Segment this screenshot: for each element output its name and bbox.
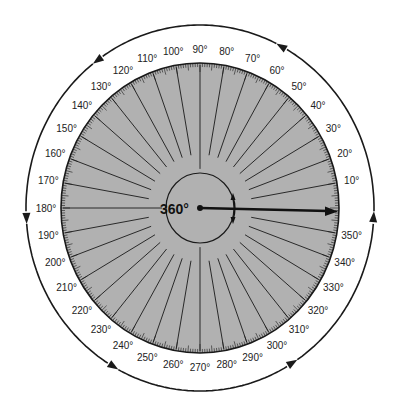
degree-label: 140° (72, 100, 93, 111)
degree-label: 160° (45, 148, 66, 159)
degree-label: 70° (245, 53, 260, 64)
degree-label: 50° (291, 81, 306, 92)
degree-label: 30° (326, 123, 341, 134)
degree-label: 240° (113, 340, 134, 351)
degree-label: 90° (192, 44, 207, 55)
degree-label: 40° (310, 100, 325, 111)
degree-label: 190° (38, 230, 59, 241)
protractor-diagram: 10°20°30°40°50°60°70°80°90°100°110°120°1… (0, 0, 394, 410)
degree-label: 60° (269, 65, 284, 76)
degree-label: 120° (113, 65, 134, 76)
degree-label: 150° (56, 123, 77, 134)
ccw-arrow-head-icon (369, 211, 377, 222)
ccw-arrow-head-icon (22, 213, 30, 224)
ccw-arrow-head-icon (107, 360, 118, 369)
degree-label: 230° (91, 324, 112, 335)
degree-label: 260° (163, 359, 184, 370)
degree-label: 340° (334, 257, 355, 268)
degree-label: 130° (91, 81, 112, 92)
degree-label: 10° (344, 175, 359, 186)
degree-label: 200° (45, 257, 66, 268)
degree-label: 250° (137, 352, 158, 363)
degree-label: 220° (72, 305, 93, 316)
center-dot (197, 205, 203, 211)
degree-label: 350° (341, 230, 362, 241)
degree-label: 170° (38, 175, 59, 186)
degree-label: 20° (337, 148, 352, 159)
degree-label: 180° (36, 203, 57, 214)
degree-label: 110° (137, 53, 157, 64)
degree-label: 320° (308, 305, 329, 316)
degree-label: 300° (267, 340, 288, 351)
outer-arc-segment (103, 25, 277, 56)
center-label: 360° (160, 201, 189, 217)
ccw-arrow-head-icon (276, 44, 287, 53)
degree-label: 210° (56, 282, 77, 293)
protractor-svg: 10°20°30°40°50°60°70°80°90°100°110°120°1… (0, 0, 394, 410)
ccw-arrow-head-icon (286, 360, 297, 369)
degree-label: 330° (323, 282, 344, 293)
degree-label: 280° (216, 359, 237, 370)
degree-label: 310° (289, 324, 310, 335)
degree-label: 290° (242, 352, 263, 363)
degree-label: 80° (219, 46, 234, 57)
degree-label: 270° (190, 362, 211, 373)
degree-label: 100° (163, 46, 184, 57)
